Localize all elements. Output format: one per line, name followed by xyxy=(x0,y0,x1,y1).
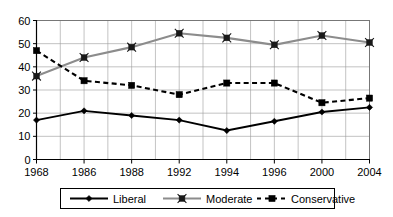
data-point-conservative xyxy=(366,95,372,101)
x-tick-label: 2000 xyxy=(310,166,334,178)
x-tick-label: 1996 xyxy=(262,166,286,178)
data-point-conservative xyxy=(224,80,230,86)
data-point-conservative xyxy=(176,92,182,98)
x-tick-label: 1968 xyxy=(24,166,48,178)
y-tick-label: 10 xyxy=(18,130,30,142)
legend-label-conservative: Conservative xyxy=(291,193,355,205)
y-tick-label: 30 xyxy=(18,84,30,96)
y-tick-label: 0 xyxy=(24,154,30,166)
data-point-conservative xyxy=(129,82,135,88)
chart-svg: 0102030405060 19681986198819921994199620… xyxy=(0,0,393,217)
data-point-conservative xyxy=(271,80,277,86)
legend-marker-conservative xyxy=(269,195,275,201)
data-point-conservative xyxy=(81,78,87,84)
x-tick-label: 1992 xyxy=(167,166,191,178)
line-chart: 0102030405060 19681986198819921994199620… xyxy=(0,0,393,217)
y-tick-label: 20 xyxy=(18,107,30,119)
x-tick-label: 1988 xyxy=(119,166,143,178)
x-tick-label: 1986 xyxy=(72,166,96,178)
chart-background xyxy=(0,0,393,217)
x-tick-label: 2004 xyxy=(357,166,381,178)
chart-legend: LiberalModerateConservative xyxy=(61,189,356,209)
y-tick-label: 50 xyxy=(18,38,30,50)
legend-label-liberal: Liberal xyxy=(113,193,146,205)
x-tick-label: 1994 xyxy=(215,166,239,178)
legend-label-moderate: Moderate xyxy=(206,193,252,205)
data-point-conservative xyxy=(33,48,39,54)
y-tick-label: 40 xyxy=(18,61,30,73)
data-point-conservative xyxy=(319,100,325,106)
y-tick-label: 60 xyxy=(18,15,30,27)
